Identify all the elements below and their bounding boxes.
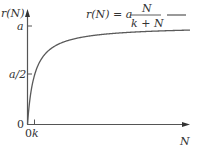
- legend: r(N) = a N k + N: [86, 2, 186, 30]
- y-tick-label-zero: 0: [17, 118, 24, 131]
- y-axis-label: r(N): [1, 7, 24, 20]
- x-tick-label-zero: 0: [25, 127, 32, 140]
- x-tick-label-k: k: [32, 127, 39, 140]
- x-axis-label: N: [179, 135, 190, 146]
- legend-lhs: r(N) = a: [86, 8, 132, 21]
- y-tick-label-a: a: [17, 20, 24, 33]
- curve-line: [28, 30, 191, 124]
- legend-denominator: k + N: [131, 17, 164, 30]
- y-tick-label-half: a/2: [9, 68, 26, 81]
- y-axis-arrow-icon: [25, 9, 30, 17]
- x-axis-arrow-icon: [182, 122, 190, 127]
- legend-numerator: N: [141, 2, 152, 15]
- saturation-curve-chart: r(N) a a/2 0 0 k N r(N) = a N k + N: [0, 0, 207, 146]
